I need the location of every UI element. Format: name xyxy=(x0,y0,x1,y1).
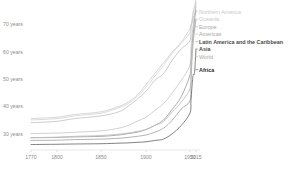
legend-label-europe[interactable]: Europe xyxy=(199,24,216,30)
legend-label-americas[interactable]: Americas xyxy=(199,31,222,37)
chart-series-lines xyxy=(31,0,196,145)
x-axis-tick-label: 1770 xyxy=(25,154,37,160)
series-line-europe xyxy=(31,3,196,123)
y-axis-tick-label: 60 years xyxy=(3,49,23,55)
legend-label-asia[interactable]: Asia xyxy=(199,46,211,52)
x-axis-tick-labels: 177018001850190019502015 xyxy=(25,154,202,160)
series-line-asia xyxy=(31,19,196,141)
chart-legend: Northern AmericaOceaniaEuropeAmericasLat… xyxy=(196,9,283,73)
legend-label-africa[interactable]: Africa xyxy=(199,67,215,73)
x-axis-tick-label: 1800 xyxy=(51,154,63,160)
legend-label-oceania[interactable]: Oceania xyxy=(199,16,219,22)
series-line-africa xyxy=(31,49,196,145)
y-axis-tick-label: 70 years xyxy=(3,21,23,27)
legend-label-latin-america-and-the-caribbean[interactable]: Latin America and the Caribbean xyxy=(199,39,283,45)
life-expectancy-line-chart: 70 years60 years50 years40 years30 years… xyxy=(0,0,302,172)
series-line-northern-america xyxy=(31,0,196,119)
y-axis-tick-labels: 70 years60 years50 years40 years30 years xyxy=(3,21,23,136)
y-axis-tick-label: 50 years xyxy=(3,76,23,82)
x-axis-tick-label: 1850 xyxy=(95,154,107,160)
x-axis-tick-label: 2015 xyxy=(190,154,202,160)
series-line-americas xyxy=(31,7,196,134)
legend-label-northern-america[interactable]: Northern America xyxy=(199,9,241,15)
y-axis-tick-label: 40 years xyxy=(3,103,23,109)
y-axis-tick-label: 30 years xyxy=(3,131,23,137)
legend-label-world[interactable]: World xyxy=(199,54,213,60)
chart-container: 70 years60 years50 years40 years30 years… xyxy=(0,0,302,172)
series-line-world xyxy=(31,19,196,137)
x-axis-tick-label: 1900 xyxy=(140,154,152,160)
chart-axes xyxy=(31,150,200,152)
